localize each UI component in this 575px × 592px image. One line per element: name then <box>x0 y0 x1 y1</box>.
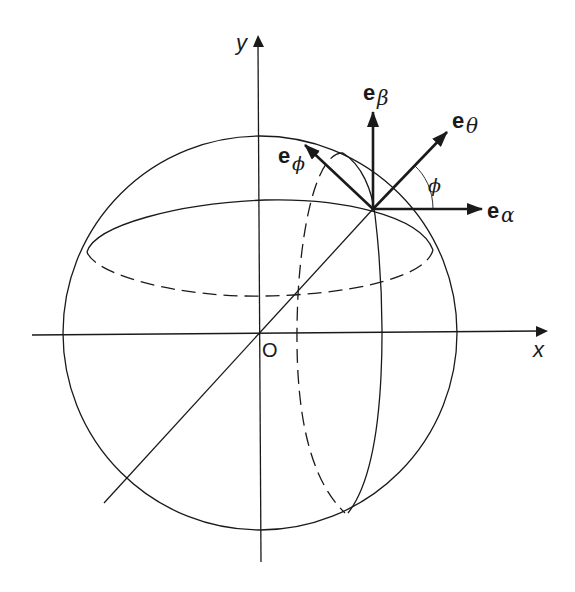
svg-text:θ: θ <box>466 114 478 138</box>
label-e-phi: e ϕ <box>278 143 305 174</box>
e-phi-vector <box>305 145 373 209</box>
y-axis <box>258 46 261 562</box>
svg-text:β: β <box>376 86 389 110</box>
svg-text:e: e <box>363 80 375 105</box>
label-e-beta: e β <box>363 80 389 110</box>
point-p <box>371 207 375 211</box>
angle-phi-label: ϕ <box>428 174 441 196</box>
svg-text:α: α <box>501 203 515 227</box>
svg-text:ϕ: ϕ <box>292 152 305 174</box>
label-e-theta: e θ <box>452 108 478 138</box>
origin-label: O <box>262 339 278 361</box>
x-axis-label: x <box>532 337 545 362</box>
x-axis-arrowhead <box>536 326 548 337</box>
y-axis-arrowhead <box>253 35 264 47</box>
e-theta-vector <box>373 132 447 209</box>
radial-line <box>104 209 373 503</box>
latitude-solid-arc <box>87 200 433 252</box>
svg-text:e: e <box>452 108 464 133</box>
y-axis-label: y <box>234 30 249 55</box>
sphere-diagram: y x O e β e θ e ϕ e α ϕ <box>0 0 575 592</box>
svg-text:e: e <box>487 198 499 223</box>
label-e-alpha: e α <box>487 198 515 227</box>
svg-text:e: e <box>278 143 290 168</box>
x-axis <box>32 331 540 335</box>
